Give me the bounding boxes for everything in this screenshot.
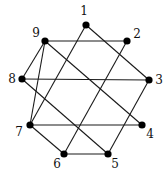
node-6 <box>60 150 67 157</box>
node-4 <box>138 121 145 128</box>
node-label-3: 3 <box>155 73 163 87</box>
edge-6-7 <box>30 125 64 154</box>
graph-diagram: 123456789 <box>0 0 168 175</box>
node-label-1: 1 <box>80 4 88 18</box>
node-1 <box>82 21 89 28</box>
nodes-group <box>18 21 152 157</box>
node-3 <box>145 76 152 83</box>
node-label-2: 2 <box>133 27 141 41</box>
node-7 <box>26 121 33 128</box>
node-label-9: 9 <box>32 26 40 40</box>
node-8 <box>18 75 25 82</box>
node-label-7: 7 <box>15 125 23 139</box>
node-9 <box>41 37 48 44</box>
node-label-8: 8 <box>8 72 16 86</box>
edge-3-8 <box>22 79 149 80</box>
edge-3-5 <box>108 80 149 154</box>
node-label-6: 6 <box>53 157 61 171</box>
node-label-5: 5 <box>111 157 119 171</box>
node-2 <box>123 37 130 44</box>
node-label-4: 4 <box>146 127 154 141</box>
edges-group <box>22 25 149 154</box>
